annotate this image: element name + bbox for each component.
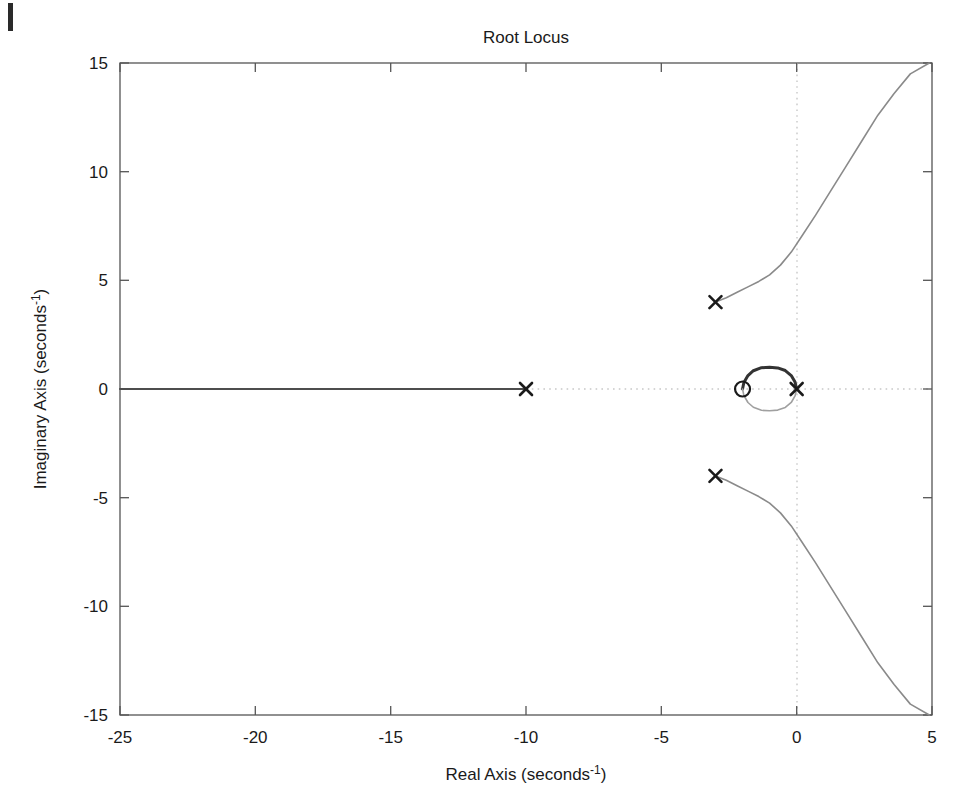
y-tick-label: -15 [83, 706, 108, 725]
y-tick-labels: 15 10 5 0 -5 -10 -15 [83, 54, 108, 725]
x-tick-label: -25 [108, 728, 133, 747]
x-tick-label: -20 [243, 728, 268, 747]
x-tick-label: -15 [378, 728, 403, 747]
chart-title: Root Locus [483, 28, 569, 47]
y-axis-label-superscript: -1 [29, 294, 43, 305]
x-tick-label: -10 [514, 728, 539, 747]
y-tick-label: -10 [83, 597, 108, 616]
y-axis-label: Imaginary Axis (seconds-1) [29, 289, 50, 490]
y-axis-label-tail: ) [31, 289, 50, 295]
x-tick-labels: -25 -20 -15 -10 -5 0 5 [108, 728, 937, 747]
y-tick-label: -5 [93, 489, 108, 508]
x-tick-label: 5 [927, 728, 936, 747]
root-locus-figure: Root Locus -25 -20 -15 -10 -5 0 5 15 10 … [0, 0, 978, 802]
y-tick-label: 0 [99, 380, 108, 399]
y-tick-label: 5 [99, 271, 108, 290]
y-tick-label: 15 [89, 54, 108, 73]
x-axis-label-superscript: -1 [590, 763, 601, 777]
x-axis-label-main: Real Axis (seconds [446, 765, 591, 784]
x-tick-label: 0 [792, 728, 801, 747]
x-tick-label: -5 [654, 728, 669, 747]
x-axis-label-tail: ) [601, 765, 607, 784]
y-tick-label: 10 [89, 163, 108, 182]
y-axis-label-main: Imaginary Axis (seconds [31, 305, 50, 489]
x-axis-label: Real Axis (seconds-1) [446, 763, 607, 784]
